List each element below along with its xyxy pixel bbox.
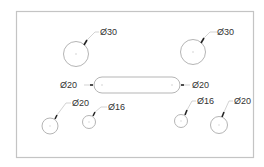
dimension-label-left: Ø20 [60, 80, 77, 90]
hole-center-mark [180, 120, 181, 121]
technical-drawing: Ø30 Ø30 Ø20 Ø20 Ø20 Ø16 [0, 0, 264, 167]
dimension-label: Ø30 [217, 27, 234, 37]
dimension-label-right: Ø20 [192, 80, 209, 90]
hole-center-mark [218, 124, 219, 125]
dimension-label: Ø16 [108, 102, 125, 112]
dimension-label: Ø16 [197, 96, 214, 106]
dimension-label: Ø20 [234, 96, 251, 106]
hole-center-mark [88, 121, 89, 122]
slot-center-mark-left [101, 84, 103, 86]
hole-center-mark [49, 125, 50, 126]
hole-center-mark [192, 51, 194, 53]
dimension-label: Ø30 [100, 27, 117, 37]
dimension-label: Ø20 [72, 98, 89, 108]
hole-center-mark [75, 53, 77, 55]
slot-center-mark-right [171, 84, 173, 86]
